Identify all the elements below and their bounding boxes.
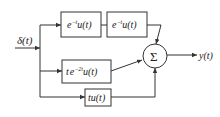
top-to-sum: [147, 25, 161, 44]
output-label: y(t): [198, 50, 214, 62]
input-label: δ(t): [17, 34, 33, 47]
block-diagram: δ(t) e−tu(t) e−tu(t) te−2tu(t) tu(t) Σ y…: [0, 0, 220, 117]
block-1-label: e−tu(t): [67, 19, 92, 31]
block-2-label: e−tu(t): [112, 19, 137, 31]
sigma-symbol: Σ: [150, 49, 158, 64]
bottom-to-sum: [111, 68, 155, 97]
block-3-label: te−2tu(t): [66, 66, 98, 78]
block-4-label: tu(t): [88, 92, 106, 104]
middle-to-sum: [111, 60, 142, 71]
